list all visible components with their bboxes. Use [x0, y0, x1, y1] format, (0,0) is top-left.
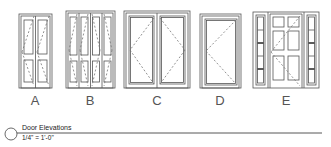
door-label-a: A	[25, 93, 45, 108]
door-label-b: B	[80, 93, 100, 108]
door-label-e: E	[276, 93, 296, 108]
door-e	[253, 12, 319, 88]
door-label-d: D	[210, 93, 230, 108]
door-d	[200, 14, 241, 88]
door-b	[66, 11, 115, 88]
door-label-c: C	[147, 93, 167, 108]
drawing-scale: 1/4" = 1'-0"	[22, 134, 54, 141]
door-a	[19, 14, 52, 88]
door-c	[124, 11, 190, 88]
drawing-title: Door Elevations	[22, 124, 71, 131]
title-marker-icon	[5, 128, 17, 140]
